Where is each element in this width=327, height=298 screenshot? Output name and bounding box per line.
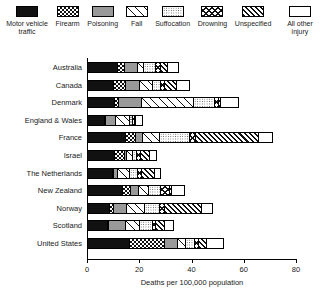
bar-segment-fall (126, 203, 145, 214)
legend-swatch-firearm-icon (57, 6, 79, 17)
legend-item-motor: Motor vehicle traffic (6, 6, 48, 36)
bar-segment-poisoning (118, 97, 141, 108)
bar-segment-firearm (129, 238, 165, 249)
bar-segment-other (154, 168, 162, 179)
bar-segment-fall (142, 132, 160, 143)
legend-item-suffocation: Suffocation (155, 6, 190, 28)
bar-segment-unspecified (141, 168, 155, 179)
legend-label-fall: Fall (131, 20, 142, 28)
bar-segment-other (164, 220, 174, 231)
y-axis-label-2: Denmark (52, 98, 82, 107)
bar-segment-fall (141, 97, 194, 108)
legend-item-other: All other injury (279, 6, 321, 36)
bar-segment-motor (87, 150, 115, 161)
y-axis-label-4: France (59, 133, 82, 142)
x-tick-label-4: 80 (284, 265, 308, 274)
bar-segment-other (171, 185, 185, 196)
y-axis-label-10: United States (37, 239, 82, 248)
bar-7 (87, 185, 185, 196)
bar-segment-suffocation (139, 220, 153, 231)
bar-segment-motor (87, 238, 130, 249)
bar-segment-motor (87, 185, 123, 196)
legend-swatch-motor-icon (16, 6, 38, 17)
bar-0 (87, 62, 179, 73)
bar-segment-other (220, 97, 239, 108)
bar-segment-motor (87, 168, 113, 179)
legend-item-fall: Fall (126, 6, 148, 28)
y-axis-label-7: New Zealand (38, 186, 82, 195)
x-axis-title: Deaths per 100,000 population (87, 278, 297, 287)
bar-4 (87, 132, 273, 143)
x-tick-label-2: 40 (180, 265, 204, 274)
x-tick-label-3: 60 (232, 265, 256, 274)
x-tick-label-1: 20 (127, 265, 151, 274)
legend-swatch-poisoning-icon (92, 6, 114, 17)
bar-segment-poisoning (124, 62, 138, 73)
legend-label-poisoning: Poisoning (87, 20, 118, 28)
bar-segment-other (206, 238, 224, 249)
legend-swatch-unspecified-icon (242, 6, 264, 17)
y-axis-label-0: Australia (53, 63, 82, 72)
legend-label-other: All other injury (279, 20, 321, 36)
bar-segment-motor (87, 115, 105, 126)
y-axis-label-9: Scotland (53, 221, 82, 230)
y-axis-label-8: Norway (57, 204, 82, 213)
x-tick-0 (87, 259, 88, 263)
legend-item-poisoning: Poisoning (87, 6, 118, 28)
legend-swatch-drowning-icon (201, 6, 223, 17)
y-axis-label-5: Israel (64, 151, 82, 160)
bar-segment-poisoning (113, 203, 127, 214)
bar-segment-suffocation (193, 97, 215, 108)
x-tick-1 (139, 259, 140, 263)
bar-segment-motor (87, 203, 110, 214)
x-tick-3 (244, 259, 245, 263)
bar-segment-poisoning (164, 238, 178, 249)
bar-10 (87, 238, 224, 249)
bar-segment-motor (87, 62, 118, 73)
legend-item-unspecified: Unspecified (235, 6, 272, 28)
bar-1 (87, 80, 190, 91)
x-tick-label-0: 0 (75, 265, 99, 274)
chart-legend: Motor vehicle trafficFirearmPoisoningFal… (0, 6, 327, 54)
y-axis-label-6: The Netherlands (27, 169, 82, 178)
bar-segment-other (176, 80, 190, 91)
bar-segment-motor (87, 220, 108, 231)
y-axis-labels: AustraliaCanadaDenmarkEngland & WalesFra… (0, 56, 86, 261)
legend-swatch-other-icon (289, 6, 311, 17)
bar-segment-poisoning (108, 220, 126, 231)
chart-plot-area: AustraliaCanadaDenmarkEngland & WalesFra… (0, 56, 327, 298)
bar-segment-other (149, 150, 157, 161)
bar-segment-unspecified (164, 203, 202, 214)
bar-segment-fall (125, 220, 140, 231)
bar-segment-suffocation (159, 132, 190, 143)
x-tick-4 (296, 259, 297, 263)
legend-swatch-fall-icon (126, 6, 148, 17)
bar-segment-other (135, 115, 143, 126)
bar-segment-motor (87, 132, 126, 143)
legend-item-firearm: Firearm (56, 6, 80, 28)
bar-segment-fall (115, 115, 129, 126)
bar-5 (87, 150, 157, 161)
bar-3 (87, 115, 143, 126)
bar-9 (87, 220, 174, 231)
bar-segment-suffocation (144, 203, 159, 214)
bar-segment-fall (139, 80, 153, 91)
bar-segment-other (258, 132, 273, 143)
bar-segment-other (167, 62, 180, 73)
bar-segment-motor (87, 97, 115, 108)
y-axis-label-1: Canada (56, 81, 82, 90)
bar-8 (87, 203, 213, 214)
bar-segment-poisoning (125, 80, 140, 91)
bar-2 (87, 97, 239, 108)
legend-label-firearm: Firearm (56, 20, 80, 28)
x-tick-2 (192, 259, 193, 263)
legend-item-drowning: Drowning (198, 6, 228, 28)
bar-segment-motor (87, 80, 114, 91)
bar-segment-other (201, 203, 214, 214)
legend-label-suffocation: Suffocation (155, 20, 190, 28)
bar-segment-unspecified (195, 132, 259, 143)
legend-label-unspecified: Unspecified (235, 20, 272, 28)
y-axis-label-3: England & Wales (25, 116, 82, 125)
legend-label-motor: Motor vehicle traffic (6, 20, 48, 36)
bar-6 (87, 168, 161, 179)
